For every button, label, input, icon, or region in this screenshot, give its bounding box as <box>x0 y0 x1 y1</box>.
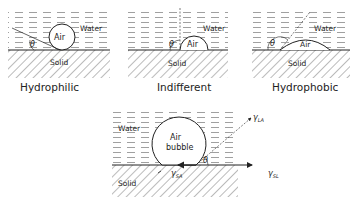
panel-bubble-forces: θ Air bubble Water Solid γSA γLA γSL <box>112 112 279 197</box>
angle-label: θ <box>30 40 35 49</box>
angle-label: θ <box>270 39 275 48</box>
contact-angle-diagram: θ Air Water Solid Hydrophilic θ Air Wate… <box>0 0 356 204</box>
gamma-la-label: γLA <box>253 113 265 123</box>
panel-hydrophobic: θ Air Water Solid Hydrophobic <box>252 12 350 93</box>
panel-hydrophilic: θ Air Water Solid Hydrophilic <box>8 12 110 93</box>
angle-label: θ <box>169 40 174 49</box>
liquid-label: Water <box>118 124 141 133</box>
gas-label: Air <box>54 33 66 42</box>
angle-label: θ <box>203 156 208 165</box>
gas-label: Air <box>300 40 311 49</box>
gas-label: Air <box>187 40 199 49</box>
caption-indifferent: Indifferent <box>157 81 211 93</box>
solid-label: Solid <box>288 59 307 68</box>
gamma-sl-label: γSL <box>268 169 279 179</box>
gas-label-1: Air <box>170 133 182 142</box>
solid-label: Solid <box>50 58 69 67</box>
caption-hydrophobic: Hydrophobic <box>272 81 339 93</box>
solid-label: Solid <box>118 179 137 188</box>
panel-indifferent: θ Air Water Solid Indifferent <box>128 8 228 93</box>
caption-hydrophilic: Hydrophilic <box>20 81 79 93</box>
gas-label-2: bubble <box>166 143 194 152</box>
solid-label: Solid <box>168 59 187 68</box>
liquid-label: Water <box>80 24 103 33</box>
liquid-label: Water <box>314 24 337 33</box>
liquid-label: Water <box>203 24 226 33</box>
